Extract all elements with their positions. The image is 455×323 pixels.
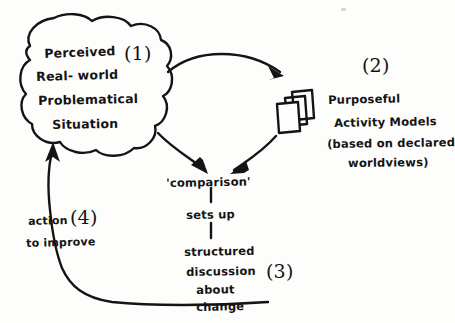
card-front [277,102,300,133]
cloud-line-1: Perceived [44,44,116,60]
outcome-line-2: discussion [186,265,256,278]
ssm-diagram-canvas: Perceived Real- world Problematical Situ… [0,0,455,323]
outcome-line-4: change [196,300,244,313]
cloud-line-2: Real- world [36,68,118,83]
label-number-2: (2) [362,56,390,76]
action-line-1: action [28,215,68,228]
arrow-cloud-to-comparison-head [191,157,208,174]
comparison-label: 'comparison' [166,176,251,190]
cloud-shape [20,14,172,156]
cloud-line-4: Situation [52,117,118,131]
cloud-line-3: Problematical [38,92,138,107]
models-line-2: Activity Models [334,115,437,129]
sets-up-label: sets up [186,208,235,221]
label-number-3: (3) [266,262,294,282]
arrow-models-to-comparison-head [230,161,249,174]
outcome-line-1: structured [184,245,255,258]
action-line-2: to improve [26,236,96,249]
arrow-models-to-comparison [234,136,276,170]
models-line-3: (based on declared [327,136,455,150]
models-line-4: worldviews) [348,156,429,169]
arrow-cloud-to-models [168,54,280,72]
arrow-feedback-head [45,142,60,162]
label-number-1: (1) [124,44,152,64]
outcome-line-3: about [196,283,235,296]
label-number-4: (4) [70,208,98,228]
scan-speck [341,8,346,11]
models-line-1: Purposeful [328,92,400,106]
